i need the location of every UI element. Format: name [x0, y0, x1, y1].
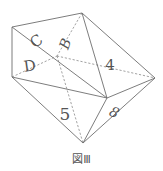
edge: [107, 78, 155, 98]
face-label-C: C: [27, 31, 47, 52]
edge: [12, 13, 82, 27]
face-label-B: B: [55, 36, 74, 52]
face-label-5: 5: [60, 104, 71, 124]
face-label-4: 4: [105, 56, 115, 74]
hidden-edge: [57, 56, 83, 143]
figure-caption: 図Ⅲ: [0, 150, 163, 166]
face-label-8: 8: [107, 103, 122, 121]
face-label-D: D: [23, 56, 37, 75]
edge: [82, 13, 107, 98]
edge: [12, 77, 83, 143]
face-labels: CBD458: [23, 31, 122, 124]
edge: [82, 13, 155, 78]
polyhedron-diagram: CBD458: [0, 0, 163, 150]
edge: [83, 98, 107, 143]
